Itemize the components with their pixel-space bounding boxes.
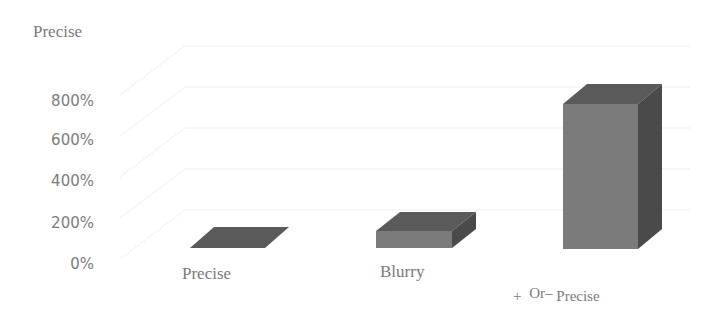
bar-blurry	[376, 212, 476, 248]
plot-area	[0, 0, 706, 321]
bar-chart-3d: Precise 800% 600% 400% 200% 0%	[0, 0, 706, 321]
bar-precise	[190, 227, 289, 248]
precise-text: Precise	[556, 288, 599, 304]
plus-sign: +	[513, 288, 521, 304]
bar-plus-minus-precise	[563, 84, 662, 249]
or-minus-text: Or–	[529, 285, 552, 301]
x-label-precise: Precise	[182, 264, 231, 284]
x-label-plus-minus-precise: + Or– Precise	[513, 288, 600, 305]
x-label-blurry: Blurry	[380, 262, 424, 282]
